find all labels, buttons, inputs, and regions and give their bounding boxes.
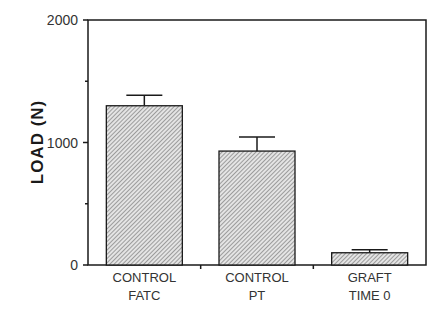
bar bbox=[332, 253, 408, 265]
x-tick-label: TIME 0 bbox=[349, 288, 391, 303]
bar-chart: 010002000 CONTROLFATCCONTROLPTGRAFTTIME … bbox=[0, 0, 438, 312]
x-tick-label: CONTROL bbox=[225, 270, 289, 285]
bar bbox=[219, 151, 295, 265]
x-tick-label: CONTROL bbox=[113, 270, 177, 285]
bars bbox=[106, 95, 407, 265]
y-tick-label: 1000 bbox=[47, 135, 78, 151]
y-tick-label: 0 bbox=[70, 257, 78, 273]
x-tick-label: FATC bbox=[128, 288, 160, 303]
y-tick-label: 2000 bbox=[47, 12, 78, 28]
x-tick-label: GRAFT bbox=[348, 270, 392, 285]
bar bbox=[106, 106, 182, 265]
x-tick-label: PT bbox=[249, 288, 266, 303]
x-axis-labels: CONTROLFATCCONTROLPTGRAFTTIME 0 bbox=[113, 270, 392, 303]
